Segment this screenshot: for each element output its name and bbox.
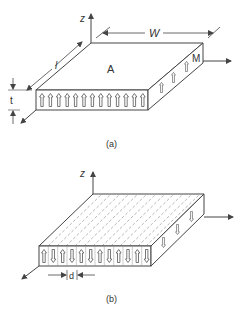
thickness-label: t — [10, 95, 13, 106]
y-axis-a — [21, 110, 36, 123]
domain-width-dimension: d — [48, 270, 95, 281]
domain-width-label: d — [69, 271, 74, 281]
z-axis-label-a: z — [79, 13, 85, 24]
width-label: W — [149, 27, 161, 39]
width-dimension-a: W — [96, 27, 220, 39]
surface-area-label: A — [107, 63, 115, 75]
length-label: l — [55, 60, 58, 71]
panel-a: z — [8, 13, 231, 149]
magnetization-label: M — [192, 53, 200, 64]
caption-b: (b) — [106, 294, 117, 304]
panel-b: z — [22, 168, 233, 304]
z-axis-label-b: z — [79, 168, 85, 179]
figure-canvas: z — [0, 0, 242, 317]
y-axis-b — [22, 266, 39, 279]
caption-a: (a) — [106, 139, 117, 149]
